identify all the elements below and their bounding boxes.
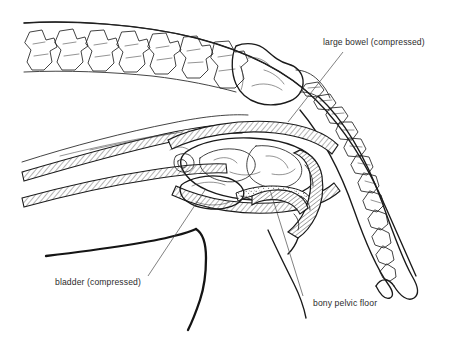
anatomy-drawing: large bowel (compressed) bladder (compre… (0, 0, 468, 338)
anatomical-figure: large bowel (compressed) bladder (compre… (0, 0, 468, 338)
label-bladder: bladder (compressed) (55, 277, 141, 287)
label-bony-pelvic-floor: bony pelvic floor (313, 298, 377, 308)
label-large-bowel: large bowel (compressed) (323, 37, 425, 47)
